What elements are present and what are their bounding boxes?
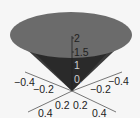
- y-tick-neg-0.2: −0.2: [90, 83, 111, 95]
- x-tick-neg-0.2: −0.2: [33, 83, 54, 95]
- z-tick-1.5: 1.5: [74, 46, 89, 58]
- y-tick-neg-0.4: −0.4: [108, 75, 129, 87]
- y-tick-0.2: 0.2: [73, 99, 88, 111]
- z-tick-2: 2: [74, 32, 80, 44]
- z-tick-1: 1: [74, 59, 80, 71]
- cone-top-face: [10, 12, 132, 58]
- x-tick-0.2: 0.2: [55, 99, 70, 111]
- y-tick-0.4: 0.4: [92, 107, 107, 118]
- cone-surface-plot: 2 1.5 1 0. −0.4 −0.2 0.2 0.4 −0.4 −0.2 0…: [0, 0, 140, 118]
- x-tick-neg-0.4: −0.4: [14, 76, 35, 88]
- x-tick-0.4: 0.4: [38, 107, 53, 118]
- z-tick-0.5: 0.: [74, 73, 83, 85]
